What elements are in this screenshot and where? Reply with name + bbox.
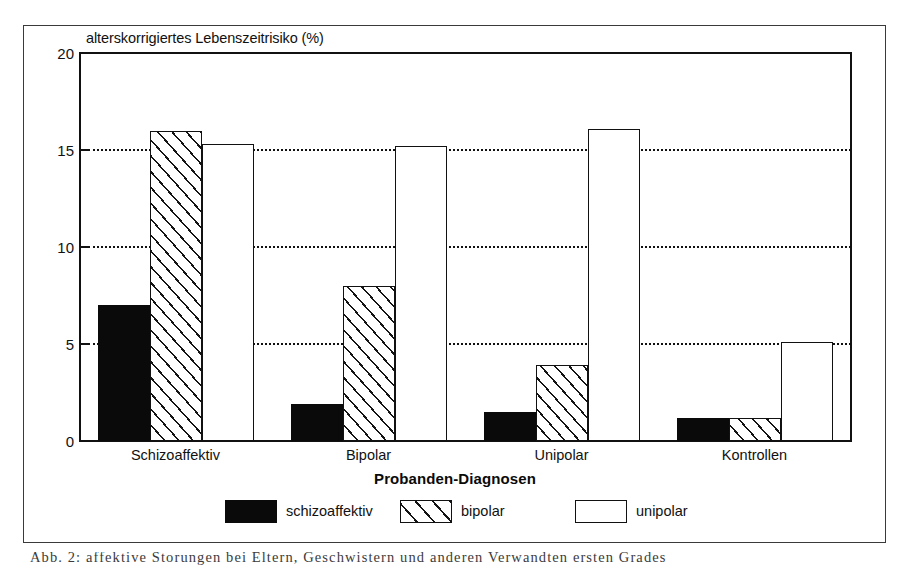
caption-text-fragment: Abb. 2: affektive Storungen bei Eltern, … bbox=[30, 552, 880, 566]
y-tick-label: 15 bbox=[40, 142, 74, 159]
open-square-swatch bbox=[575, 500, 627, 523]
bar-schizoaffektiv-schizoaffektiv bbox=[98, 305, 150, 441]
bar-schizoaffektiv-bipolar bbox=[150, 131, 202, 441]
y-tick-label: 10 bbox=[40, 239, 74, 256]
bar-bipolar-schizoaffektiv bbox=[291, 404, 343, 441]
bar-unipolar-schizoaffektiv bbox=[484, 412, 536, 441]
caption-line: Abb. 2: affektive Storungen bei Eltern, … bbox=[30, 552, 880, 566]
legend-label: schizoaffektiv bbox=[286, 503, 373, 519]
legend-label: unipolar bbox=[636, 503, 688, 519]
filled-square-swatch bbox=[225, 500, 277, 523]
legend-item-schizoaffektiv: schizoaffektiv bbox=[225, 498, 373, 524]
y-tick-label: 20 bbox=[40, 45, 74, 62]
legend: schizoaffektivbipolarunipolar bbox=[0, 498, 910, 528]
chart-title: alterskorrigiertes Lebenszeitrisiko (%) bbox=[86, 30, 324, 46]
bar-kontrollen-unipolar bbox=[781, 342, 833, 441]
bar-unipolar-bipolar bbox=[536, 365, 588, 441]
legend-item-bipolar: bipolar bbox=[400, 498, 505, 524]
bar-unipolar-unipolar bbox=[588, 129, 640, 441]
bar-bipolar-bipolar bbox=[343, 286, 395, 441]
bar-kontrollen-bipolar bbox=[729, 418, 781, 441]
legend-label: bipolar bbox=[461, 503, 505, 519]
hatched-square-swatch bbox=[400, 500, 452, 523]
x-group-label-bipolar: Bipolar bbox=[346, 447, 391, 463]
bar-schizoaffektiv-unipolar bbox=[202, 144, 254, 441]
y-tick-label: 0 bbox=[40, 433, 74, 450]
y-tick-label: 5 bbox=[40, 336, 74, 353]
x-axis-title: Probanden-Diagnosen bbox=[0, 470, 910, 487]
x-group-label-schizoaffektiv: Schizoaffektiv bbox=[131, 447, 220, 463]
legend-item-unipolar: unipolar bbox=[575, 498, 688, 524]
x-group-label-unipolar: Unipolar bbox=[535, 447, 589, 463]
x-group-label-kontrollen: Kontrollen bbox=[722, 447, 787, 463]
bar-kontrollen-schizoaffektiv bbox=[677, 418, 729, 441]
plot-area bbox=[79, 53, 851, 441]
bar-bipolar-unipolar bbox=[395, 146, 447, 441]
